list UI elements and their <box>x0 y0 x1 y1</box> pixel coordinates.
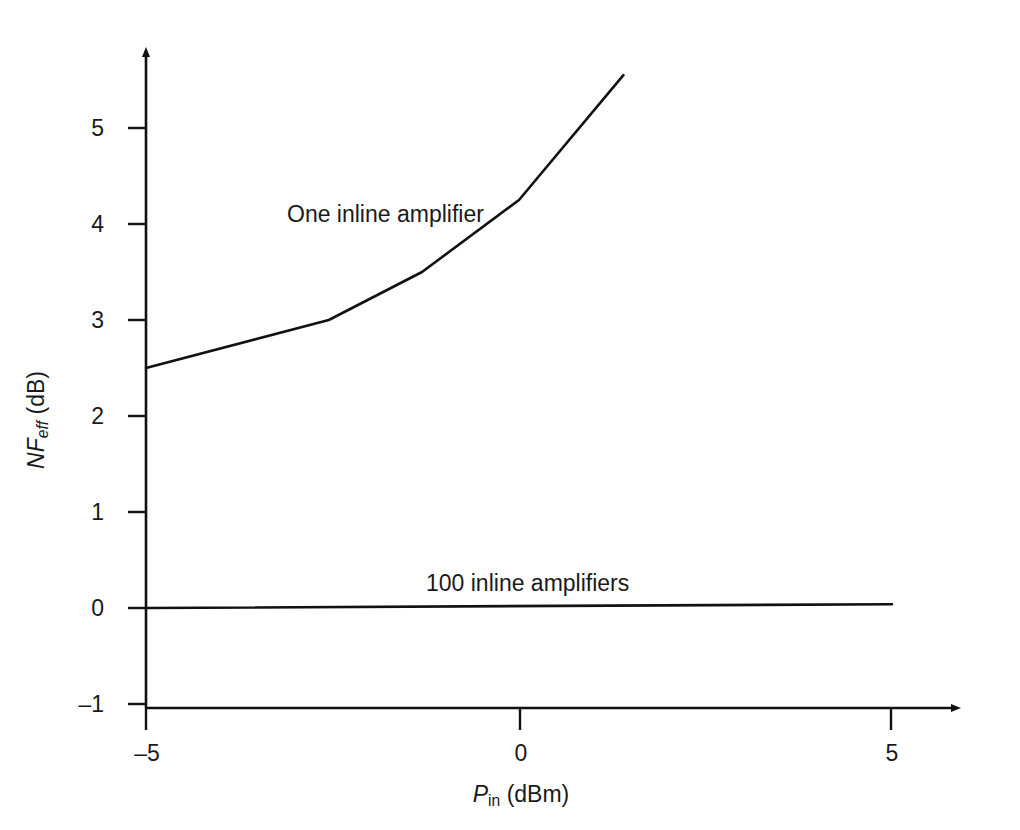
series-annotation-one-inline-amplifier: One inline amplifier <box>287 203 484 226</box>
y-axis-symbol: NF <box>23 438 49 469</box>
y-tick-label-5: 5 <box>70 117 104 140</box>
x-tick-label-0: 0 <box>515 742 528 765</box>
y-tick-label-4: 4 <box>70 213 104 236</box>
x-axis-subscript: in <box>488 792 500 809</box>
x-axis-symbol: P <box>473 781 488 807</box>
y-axis-ticks <box>128 128 146 704</box>
y-tick-label-1: 1 <box>70 501 104 524</box>
y-tick-label-neg1: –1 <box>62 693 104 716</box>
y-axis-units: (dB) <box>23 371 49 414</box>
plot-canvas <box>0 0 1020 830</box>
chart-figure: 5 4 3 2 1 0 –1 –5 0 5 NFeff (dB) Pin (dB… <box>0 0 1020 830</box>
y-axis-subscript: eff <box>34 421 51 438</box>
y-tick-label-0: 0 <box>70 597 104 620</box>
x-axis-units: (dBm) <box>507 781 570 807</box>
x-tick-label-5: 5 <box>886 742 899 765</box>
series-annotation-100-inline-amplifiers: 100 inline amplifiers <box>426 572 629 595</box>
y-axis-title: NFeff (dB) <box>25 371 51 469</box>
x-tick-label-neg5: –5 <box>134 742 160 765</box>
series-line-100-inline-amplifiers <box>146 604 892 608</box>
y-tick-label-2: 2 <box>70 405 104 428</box>
y-tick-label-3: 3 <box>70 309 104 332</box>
x-axis-title: Pin (dBm) <box>473 783 570 809</box>
x-axis-ticks <box>146 708 891 730</box>
